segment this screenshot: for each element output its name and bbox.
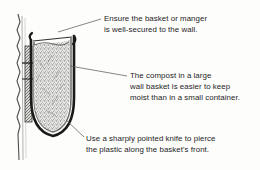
caption-secure-to-wall: Ensure the basket or manger is well-secu…	[104, 13, 207, 35]
basket-rim	[33, 37, 72, 41]
caption-line: the plastic along the basket's front.	[86, 144, 216, 155]
leader-line-compost-moisture	[70, 66, 127, 76]
illustration-figure: Ensure the basket or manger is well-secu…	[0, 0, 260, 170]
caption-line: moist than in a small container.	[130, 92, 240, 103]
leader-line-pierce-plastic	[66, 120, 84, 137]
caption-pierce-plastic: Use a sharply pointed knife to pierce th…	[86, 133, 216, 155]
caption-line: The compost in a large	[130, 70, 240, 81]
caption-compost-moisture: The compost in a large wall basket is ea…	[130, 70, 240, 104]
caption-line: Use a sharply pointed knife to pierce	[86, 133, 216, 144]
caption-line: Ensure the basket or manger	[104, 13, 207, 24]
caption-line: wall basket is easier to keep	[130, 81, 240, 92]
leader-line-secure-to-wall	[58, 19, 101, 32]
caption-line: is well-secured to the wall.	[104, 24, 207, 35]
